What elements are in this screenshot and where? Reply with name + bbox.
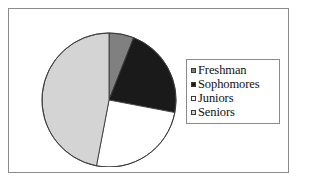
legend-item-label: Seniors xyxy=(198,105,235,119)
pie-slices-group xyxy=(42,33,176,167)
legend-item-freshman[interactable]: Freshman xyxy=(191,63,276,77)
legend-item-label: Juniors xyxy=(198,91,233,105)
legend-item-label: Sophomores xyxy=(198,77,260,91)
pie-chart xyxy=(35,17,177,167)
legend-item-juniors[interactable]: Juniors xyxy=(191,91,276,105)
legend-item-sophomores[interactable]: Sophomores xyxy=(191,77,276,91)
chart-legend: Freshman Sophomores Juniors Seniors xyxy=(186,59,280,124)
square-swatch-icon xyxy=(191,96,196,101)
square-swatch-icon xyxy=(191,68,196,73)
pie-chart-svg xyxy=(35,17,177,167)
legend-item-label: Freshman xyxy=(198,63,247,77)
legend-item-seniors[interactable]: Seniors xyxy=(191,105,276,119)
chart-screenshot: Freshman Sophomores Juniors Seniors xyxy=(0,0,309,183)
pie-slice-seniors[interactable] xyxy=(42,33,109,166)
square-swatch-icon xyxy=(191,110,196,115)
square-swatch-icon xyxy=(191,82,196,87)
pie-slice-juniors[interactable] xyxy=(96,100,174,167)
chart-frame: Freshman Sophomores Juniors Seniors xyxy=(8,8,289,173)
